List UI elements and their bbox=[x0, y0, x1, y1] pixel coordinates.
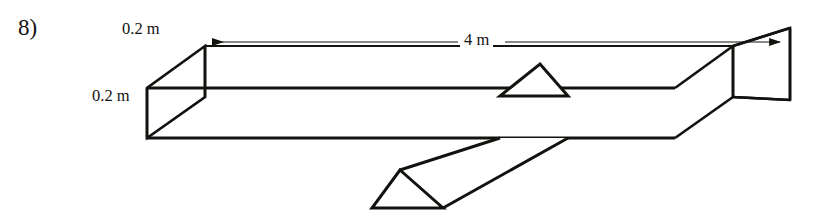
problem-number-label: 8) bbox=[18, 16, 37, 39]
width-dimension-annotation bbox=[168, 40, 202, 46]
beam-right-end-face bbox=[733, 28, 790, 100]
beam-right-bottom-corner-edge bbox=[675, 97, 733, 138]
beam-top-face bbox=[147, 46, 733, 88]
beam-diagram-figure: 8) 0.2 m 0.2 m 4 m bbox=[0, 0, 839, 219]
beam-front-face bbox=[147, 88, 675, 138]
length-dimension-label: 4 m bbox=[460, 32, 493, 49]
height-dimension-label: 0.2 m bbox=[92, 88, 130, 105]
width-dimension-label: 0.2 m bbox=[122, 21, 160, 38]
width-dimension-leader bbox=[168, 40, 202, 46]
